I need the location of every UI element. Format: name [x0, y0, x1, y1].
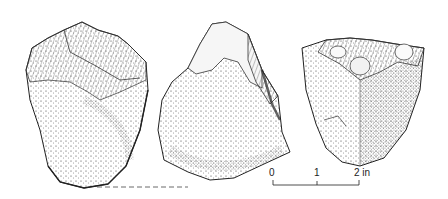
scale-bar: [273, 180, 359, 185]
scale-tick-1: 1: [314, 168, 320, 178]
artifact-center: [158, 22, 290, 180]
scale-tick-0: 0: [269, 168, 275, 178]
artifact-right: [302, 38, 424, 166]
artifact-illustration: [0, 0, 448, 199]
artifact-left: [26, 22, 148, 188]
scale-tick-2: 2 in: [354, 168, 370, 178]
